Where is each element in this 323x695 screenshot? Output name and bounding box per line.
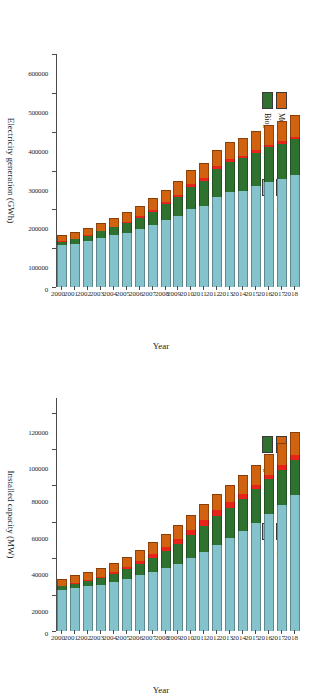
bar-segment-muncipal-waste (264, 125, 274, 144)
bar-2018 (290, 54, 300, 287)
chart-panel-generation: Muncipal WasteLiquid BiofuelsBiogasSolid… (0, 0, 323, 344)
bar-segment-solid-biofuels (238, 531, 248, 631)
bar-segment-muncipal-waste (174, 181, 184, 195)
x-tick-label: 0 (45, 630, 48, 638)
bar-2003 (96, 54, 106, 287)
bar-segment-muncipal-waste (225, 485, 235, 503)
bar-2016 (264, 54, 274, 287)
bar-segment-biogas (186, 535, 196, 558)
bar-segment-biogas (96, 231, 106, 238)
bar-2014 (238, 54, 248, 287)
bar-2005 (122, 398, 132, 631)
bar-segment-muncipal-waste (199, 504, 209, 520)
bar-segment-solid-biofuels (83, 586, 93, 631)
bar-segment-solid-biofuels (109, 235, 119, 287)
bar-segment-biogas (161, 204, 171, 220)
bar-segment-muncipal-waste (70, 575, 80, 583)
bar-segment-muncipal-waste (277, 443, 287, 465)
bar-segment-muncipal-waste (135, 550, 145, 561)
y-axis-categories-capacity: 2000200120022003200420052006200720082009… (56, 634, 301, 680)
x-tick (52, 595, 56, 596)
x-tick (52, 558, 56, 559)
bar-segment-solid-biofuels (212, 197, 222, 287)
bar-segment-biogas (290, 139, 300, 175)
bar-2006 (135, 54, 145, 287)
y-tick-label-2005: 2005 (116, 634, 130, 642)
y-tick-label-2016: 2016 (258, 290, 272, 298)
bar-segment-solid-biofuels (96, 585, 106, 631)
bar-segment-muncipal-waste (122, 557, 132, 567)
bar-2006 (135, 398, 145, 631)
bar-segment-solid-biofuels (199, 206, 209, 287)
bar-segment-biogas (174, 544, 184, 564)
y-tick-label-2004: 2004 (103, 290, 117, 298)
bar-segment-solid-biofuels (251, 523, 261, 631)
bar-2000 (57, 54, 67, 287)
bar-segment-solid-biofuels (148, 572, 158, 631)
bar-segment-solid-biofuels (135, 229, 145, 287)
bar-segment-muncipal-waste (161, 534, 171, 547)
bar-segment-muncipal-waste (238, 138, 248, 156)
bars-capacity (56, 398, 301, 631)
bar-2011 (199, 54, 209, 287)
bar-2015 (251, 54, 261, 287)
bar-2007 (148, 398, 158, 631)
y-tick-label-2016: 2016 (258, 634, 272, 642)
x-tick-label: 600000 (28, 70, 48, 78)
x-tick (52, 209, 56, 210)
bar-2009 (174, 54, 184, 287)
bar-2008 (161, 398, 171, 631)
bar-segment-solid-biofuels (161, 220, 171, 287)
bar-segment-muncipal-waste (70, 232, 80, 239)
bar-2000 (57, 398, 67, 631)
bar-segment-muncipal-waste (161, 190, 171, 203)
bar-segment-biogas (109, 227, 119, 235)
bar-segment-biogas (251, 153, 261, 187)
bar-segment-muncipal-waste (251, 465, 261, 485)
bar-segment-biogas (212, 169, 222, 197)
bar-segment-muncipal-waste (135, 206, 145, 217)
y-tick-label-2007: 2007 (142, 290, 156, 298)
bar-segment-solid-biofuels (122, 579, 132, 631)
bar-2013 (225, 398, 235, 631)
bar-segment-muncipal-waste (83, 228, 93, 235)
bar-segment-biogas (251, 489, 261, 522)
bar-2010 (186, 54, 196, 287)
bar-segment-muncipal-waste (225, 142, 235, 159)
bar-segment-muncipal-waste (277, 121, 287, 141)
y-tick-label-2014: 2014 (232, 634, 246, 642)
bar-segment-solid-biofuels (225, 538, 235, 631)
y-tick-label-2014: 2014 (232, 290, 246, 298)
bar-segment-solid-biofuels (135, 575, 145, 631)
bar-2009 (174, 398, 184, 631)
bar-2004 (109, 398, 119, 631)
bar-segment-muncipal-waste (148, 198, 158, 210)
x-tick-label: 200000 (28, 225, 48, 233)
bar-segment-solid-biofuels (96, 238, 106, 287)
y-tick-label-2007: 2007 (142, 634, 156, 642)
bar-segment-muncipal-waste (238, 475, 248, 494)
x-tick-label: 0 (45, 286, 48, 294)
y-tick-label-2006: 2006 (129, 290, 143, 298)
bar-segment-solid-biofuels (277, 505, 287, 632)
bar-segment-solid-biofuels (70, 588, 80, 631)
bar-segment-muncipal-waste (251, 131, 261, 149)
bar-segment-solid-biofuels (186, 558, 196, 631)
x-axis-line-generation (56, 54, 57, 287)
bar-segment-muncipal-waste (212, 150, 222, 166)
bar-segment-biogas (135, 218, 145, 229)
bar-segment-muncipal-waste (186, 170, 196, 184)
bar-segment-muncipal-waste (109, 218, 119, 227)
x-axis-title-capacity: Installed capacity (MW) (6, 398, 16, 631)
x-tick-label: 300000 (28, 186, 48, 194)
bar-segment-muncipal-waste (212, 494, 222, 511)
x-tick-label: 60000 (31, 534, 48, 542)
y-tick-label-2018: 2018 (284, 290, 298, 298)
bars-generation (56, 54, 301, 287)
bar-2004 (109, 54, 119, 287)
bar-segment-biogas (148, 212, 158, 225)
bar-segment-solid-biofuels (199, 552, 209, 631)
x-tick (52, 449, 56, 450)
x-tick-label: 100000 (28, 264, 48, 272)
bar-2012 (212, 54, 222, 287)
